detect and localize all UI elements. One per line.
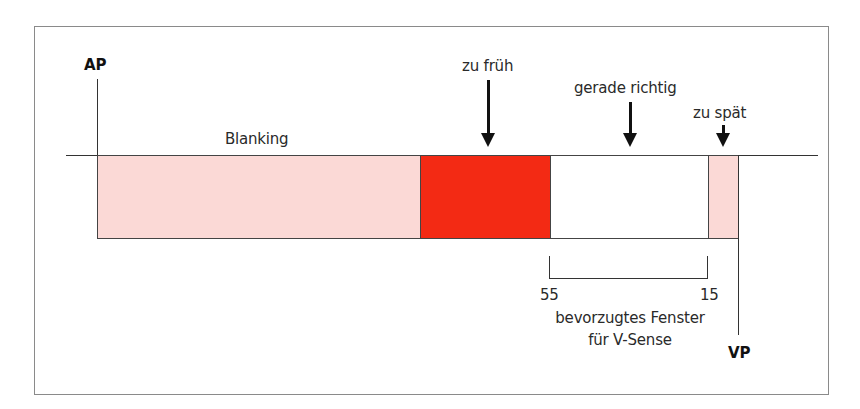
blanking-label: Blanking <box>225 130 288 148</box>
window-start-value: 55 <box>540 286 559 304</box>
window-caption-line1: bevorzugtes Fenster <box>545 309 715 327</box>
too-late-arrowhead-icon <box>716 133 730 147</box>
just-right-arrowhead-icon <box>623 133 637 147</box>
too-late-label: zu spät <box>693 104 746 122</box>
bracket-right-tick <box>707 256 708 279</box>
vp-marker-line <box>738 155 739 335</box>
just-right-arrow-icon <box>629 102 632 134</box>
blanking-segment <box>97 155 421 239</box>
vp-label: VP <box>728 344 750 362</box>
ap-marker-line <box>97 79 98 156</box>
bracket-bottom <box>549 278 708 279</box>
window-end-value: 15 <box>700 286 719 304</box>
bracket-left-tick <box>549 256 550 279</box>
window-caption-line2: für V-Sense <box>545 331 715 349</box>
ap-label: AP <box>84 56 106 74</box>
just-right-label: gerade richtig <box>574 79 677 97</box>
too-early-label: zu früh <box>462 57 513 75</box>
too-early-arrow-icon <box>487 80 490 134</box>
too-early-arrowhead-icon <box>481 133 495 147</box>
too-early-segment <box>420 155 551 239</box>
too-late-segment <box>708 155 739 239</box>
preferred-window-segment <box>550 155 709 239</box>
